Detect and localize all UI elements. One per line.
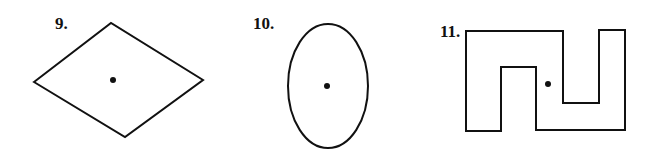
figure-11-polygon — [466, 30, 625, 131]
figure-11-dot — [545, 81, 551, 87]
figure-10-center-dot — [324, 83, 330, 89]
figure-9-rhombus — [34, 23, 203, 137]
figures-canvas — [0, 0, 664, 166]
figure-10-ellipse — [288, 24, 368, 148]
figure-9-center-dot — [110, 77, 116, 83]
